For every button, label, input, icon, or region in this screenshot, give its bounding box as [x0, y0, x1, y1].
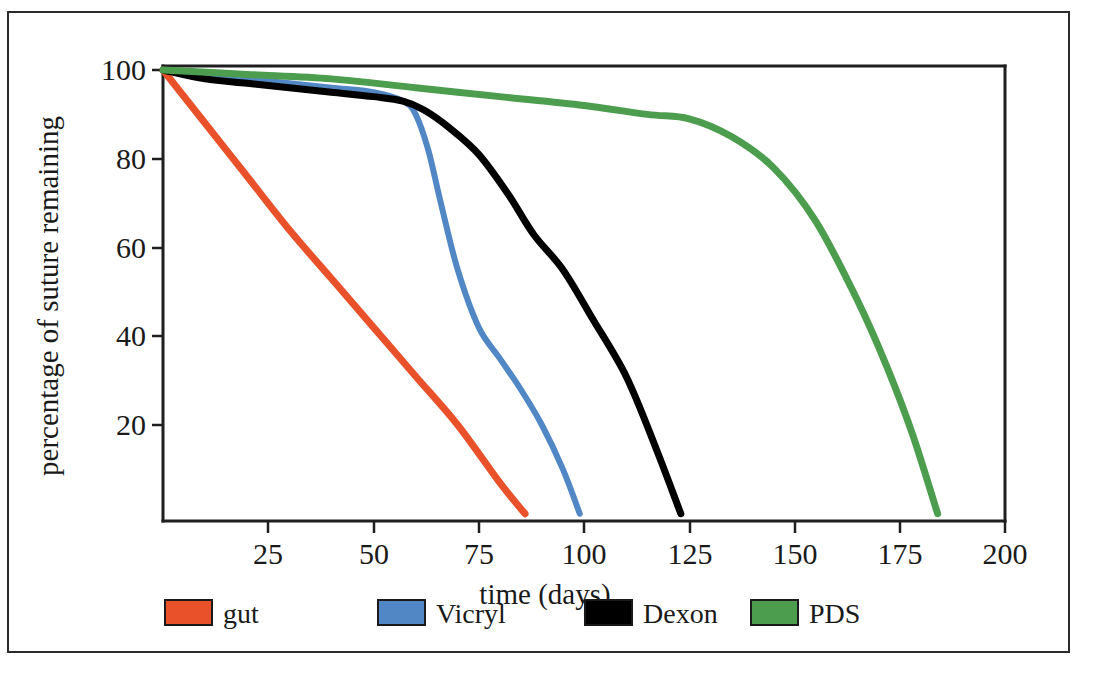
- legend-swatch-gut: [165, 600, 212, 625]
- legend-label-pds: PDS: [809, 598, 860, 629]
- series-line-gut: [163, 70, 525, 514]
- legend-swatch-vicryl: [378, 600, 425, 625]
- y-tick-label-40: 40: [116, 319, 146, 352]
- series-curves: [163, 70, 938, 514]
- y-tick-label-60: 60: [116, 231, 146, 264]
- x-tick-labels: 25 50 75 100 125 150 175 200: [253, 537, 1028, 570]
- y-tick-label-80: 80: [116, 142, 146, 175]
- legend-label-gut: gut: [223, 598, 259, 629]
- legend-swatch-pds: [751, 600, 798, 625]
- legend-label-vicryl: Vicryl: [436, 598, 506, 629]
- y-tick-marks: [152, 70, 163, 425]
- y-tick-label-100: 100: [101, 53, 146, 86]
- legend-item-dexon[interactable]: Dexon: [585, 598, 718, 629]
- figure-container: 100 80 60 40 20 25 50 75 100 125 150 175: [0, 0, 1099, 674]
- legend-swatch-dexon: [585, 600, 632, 625]
- legend-label-dexon: Dexon: [643, 598, 718, 629]
- legend-item-vicryl[interactable]: Vicryl: [378, 598, 506, 629]
- legend-item-pds[interactable]: PDS: [751, 598, 860, 629]
- plot-axes: [163, 66, 1005, 521]
- series-line-vicryl: [163, 70, 580, 514]
- x-tick-label-50: 50: [359, 537, 389, 570]
- y-axis-title: percentage of suture remaining: [32, 116, 64, 476]
- x-tick-label-100: 100: [562, 537, 607, 570]
- x-tick-label-125: 125: [668, 537, 713, 570]
- x-tick-label-75: 75: [464, 537, 494, 570]
- y-tick-label-20: 20: [116, 408, 146, 441]
- x-tick-label-150: 150: [773, 537, 818, 570]
- y-tick-labels: 100 80 60 40 20: [101, 53, 146, 441]
- legend-item-gut[interactable]: gut: [165, 598, 259, 629]
- x-tick-marks: [268, 521, 1005, 533]
- x-tick-label-175: 175: [878, 537, 923, 570]
- suture-degradation-chart: 100 80 60 40 20 25 50 75 100 125 150 175: [0, 0, 1099, 674]
- x-tick-label-25: 25: [253, 537, 283, 570]
- x-tick-label-200: 200: [983, 537, 1028, 570]
